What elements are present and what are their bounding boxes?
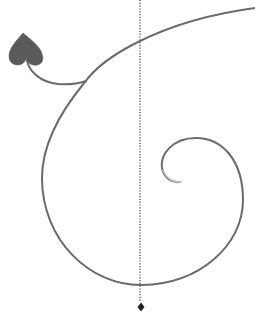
spiral-inner-tail <box>163 170 181 182</box>
diamond-marker-icon <box>138 303 145 312</box>
illustration-canvas <box>0 0 255 312</box>
heart-leaf-icon <box>9 33 43 65</box>
spiral-tendril <box>42 8 255 285</box>
spiral-illustration <box>0 0 255 312</box>
